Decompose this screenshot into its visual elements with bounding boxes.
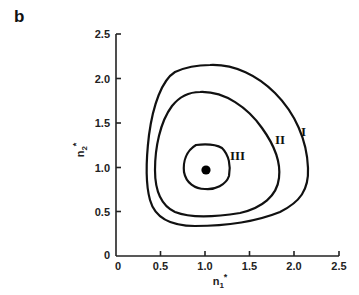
svg-text:n1*: n1* (213, 272, 228, 290)
x-tick-label: 2.5 (331, 260, 346, 272)
y-axis-title: n2* (71, 142, 89, 157)
phase-plane-chart: 2.5 2.0 1.5 1.0 0.5 0 0 0.5 1.0 1.5 2.0 … (0, 0, 359, 295)
curve-label-III: III (230, 148, 245, 163)
x-tick-label: 1.0 (197, 260, 212, 272)
y-tick-label: 0 (104, 249, 110, 261)
x-tick-label: 0 (115, 260, 121, 272)
x-tick-label: 1.5 (242, 260, 257, 272)
trajectory-II (155, 92, 279, 216)
equilibrium-point-marker (201, 165, 210, 174)
y-tick-labels: 2.5 2.0 1.5 1.0 0.5 0 (95, 28, 110, 261)
curve-label-I: I (301, 124, 306, 139)
y-tick-label: 0.5 (95, 206, 110, 218)
curve-label-II: II (275, 132, 285, 147)
x-tick-label: 0.5 (153, 260, 168, 272)
y-tick-label: 1.5 (95, 117, 110, 129)
y-tick-label: 2.5 (95, 28, 110, 40)
y-tick-label: 1.0 (95, 162, 110, 174)
y-tick-label: 2.0 (95, 73, 110, 85)
x-tick-label: 2.0 (286, 260, 301, 272)
svg-text:n2*: n2* (71, 142, 89, 157)
x-axis-title: n1* (213, 272, 228, 290)
x-tick-labels: 0 0.5 1.0 1.5 2.0 2.5 (115, 260, 347, 272)
